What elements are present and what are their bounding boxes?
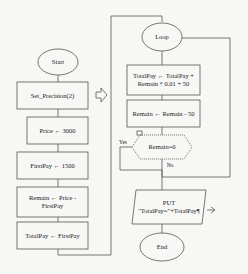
continuation-arrow-icon <box>96 88 107 102</box>
start-label: Start <box>38 56 78 68</box>
decision-label: Remain=0 <box>135 141 189 153</box>
totalpay-label: TotalPay ← FirstPay <box>17 222 88 249</box>
firstpay-label: FirstPay ← 1500 <box>17 152 88 179</box>
remain-line-2: FirstPay <box>42 202 64 210</box>
totalpay-update-line-1: TotalPay ← TotalPay + <box>133 72 194 80</box>
put-line-2: "TotalPay="+TotalPay¶ <box>138 207 200 215</box>
remain-line-1: Remain ← Price - <box>29 194 76 202</box>
loop-label: Loop <box>142 31 182 43</box>
set-precision-label: Set_Precision(2) <box>17 82 88 109</box>
remain-label: Remain ← Price - FirstPay <box>17 187 88 217</box>
remain-update-label: Remain ← Remain - 50 <box>127 100 200 127</box>
put-label: PUT "TotalPay="+TotalPay¶ <box>133 192 205 222</box>
put-line-1: PUT <box>163 199 175 207</box>
totalpay-update-label: TotalPay ← TotalPay + Remain * 0.01 + 50 <box>127 65 200 95</box>
yes-label: Yes <box>115 138 131 146</box>
price-label: Price ← 3000 <box>27 117 88 144</box>
totalpay-update-line-2: Remain * 0.01 + 50 <box>138 80 190 88</box>
end-label: End <box>142 241 182 253</box>
no-label: No <box>164 161 176 169</box>
